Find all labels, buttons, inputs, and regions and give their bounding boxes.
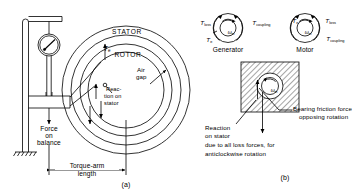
- rotor-inner-circle: [88, 52, 164, 128]
- reaction-b-line3: due to all loss forces, for: [205, 142, 275, 149]
- air-gap-label-line2: gap: [136, 74, 147, 81]
- generator-t-coupling-subscript: coupling: [256, 22, 270, 26]
- motor-t-e-subscript: e: [296, 20, 298, 24]
- motor-t-loss-subscript: loss: [329, 20, 336, 24]
- torque-arm-length-line2: length: [55, 171, 119, 178]
- ground-hatching: [14, 152, 38, 156]
- reaction-on-stator-line1: Reac-: [106, 87, 121, 93]
- generator-t-e-subscript: e: [210, 39, 212, 43]
- generator-t-coupling-label: Tcoupling: [245, 13, 270, 33]
- support-post: [23, 19, 29, 152]
- force-on-balance-line3: balance: [26, 140, 72, 147]
- torque-e-subscript: e: [108, 47, 110, 52]
- bearing-omega-subscript: m: [275, 90, 278, 94]
- rotor-label: ROTOR: [106, 52, 150, 59]
- air-gap-leader: [150, 70, 166, 84]
- torque-arm-bracket: [29, 62, 102, 108]
- reaction-b-line4: anticlockwise rotation: [205, 151, 266, 158]
- stator-label: STATOR: [101, 29, 153, 36]
- motor-t-coupling-subscript: coupling: [330, 38, 344, 42]
- dial-spring-balance: [38, 22, 60, 97]
- motor-t-coupling-label: Tcoupling: [319, 29, 344, 49]
- reaction-b-line2: on stator: [205, 133, 230, 140]
- generator-name-label: Generator: [207, 47, 249, 54]
- motor-omega-label: ωm: [296, 25, 314, 42]
- reaction-b-line1: Reaction: [205, 125, 230, 132]
- torque-arm-length-line1: Torque-arm: [55, 163, 119, 170]
- motor-name-label: Motor: [287, 47, 323, 54]
- generator-t-loss-subscript: loss: [204, 22, 211, 26]
- generator-omega-label: ωm: [219, 25, 237, 42]
- bearing-friction-line2: opposing rotation: [299, 114, 348, 121]
- torque-e-label: Te: [95, 37, 110, 61]
- reaction-on-stator-arrows: [90, 84, 101, 124]
- panel-a-id: (a): [110, 181, 142, 188]
- bearing-omega-label: ωm: [262, 83, 280, 100]
- reaction-on-stator-line2: tion on: [104, 94, 122, 100]
- motor-t-loss-label: Tloss: [318, 11, 336, 31]
- motor-omega-subscript: m: [309, 32, 312, 36]
- reaction-on-stator-line3: stator: [104, 101, 119, 107]
- overhead-bracket: [29, 17, 63, 22]
- bearing-friction-line1: Bearing friction force: [293, 106, 352, 113]
- panel-b-id: (b): [269, 174, 301, 181]
- generator-omega-subscript: m: [232, 32, 235, 36]
